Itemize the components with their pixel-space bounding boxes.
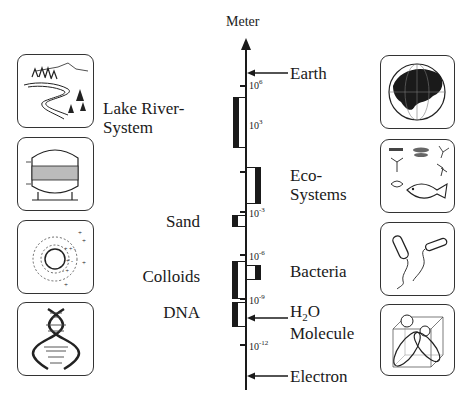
svg-text:+: + (64, 281, 68, 289)
tick-1e-3 (240, 211, 246, 213)
svg-text:+: + (82, 259, 86, 267)
label-bacteria: Bacteria (290, 262, 347, 281)
tick-label-1e-3: 10-3 (249, 206, 265, 219)
tick-1e6 (240, 85, 246, 87)
tick-1e-12 (240, 344, 246, 346)
range-bar-sand (232, 215, 246, 227)
label-colloids: Colloids (120, 267, 200, 286)
earth-arrow-icon (246, 67, 288, 79)
label-electron: Electron (290, 367, 348, 386)
range-bar-colloids (232, 261, 246, 299)
range-bar-bacteria (246, 265, 261, 280)
ecosystem-organisms-icon (380, 139, 455, 213)
range-bar-dna (232, 302, 246, 327)
svg-text:+: + (78, 229, 82, 237)
tick-label-1e-9: 10-9 (249, 293, 265, 306)
axis-title: Meter (226, 12, 259, 31)
globe-icon (380, 55, 455, 129)
svg-text:+ + -: + + - (64, 246, 76, 252)
tick-label-1e-6: 10-6 (249, 249, 265, 262)
svg-text:- +: - + (62, 268, 69, 274)
tick-label-1e3: 103 (249, 118, 263, 131)
tick-label-1e-12: 10-12 (249, 339, 268, 352)
tick-1e-6 (240, 254, 246, 256)
label-lake-river-system: Lake River- System (103, 99, 184, 137)
svg-text:+ -: + - (66, 258, 73, 264)
electron-arrow-icon (246, 370, 288, 382)
landscape-river-icon (17, 54, 94, 128)
label-ecosystems: Eco- Systems (290, 166, 347, 204)
range-bar-lake-river (233, 97, 246, 148)
tick-label-1e6: 106 (249, 78, 263, 91)
label-dna: DNA (130, 303, 200, 322)
colloid-particle-icon: + + - + - - + + + + + (17, 220, 94, 294)
filter-tank-icon (17, 137, 94, 211)
label-h2o-molecule: H2O Molecule (290, 302, 354, 343)
label-sand: Sand (130, 212, 200, 231)
svg-text:+: + (82, 237, 86, 245)
bacteria-icon (380, 222, 455, 296)
water-molecule-icon (380, 304, 455, 376)
h2o-arrow-icon (246, 312, 288, 324)
range-bar-ecosystems (246, 167, 261, 204)
label-earth: Earth (290, 64, 327, 83)
axis-arrowhead-icon (241, 38, 251, 50)
dna-helix-icon (17, 302, 94, 376)
